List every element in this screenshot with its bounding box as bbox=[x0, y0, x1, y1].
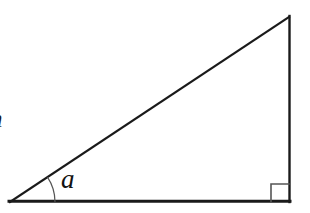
clipped-side-label: h bbox=[0, 106, 3, 131]
angle-label-a: a bbox=[61, 166, 75, 193]
hypotenuse-line bbox=[10, 17, 289, 202]
angle-arc-marker bbox=[48, 177, 56, 202]
triangle-diagram-svg bbox=[0, 0, 310, 213]
right-angle-square-marker bbox=[271, 184, 289, 202]
figure-canvas: a h bbox=[0, 0, 310, 213]
